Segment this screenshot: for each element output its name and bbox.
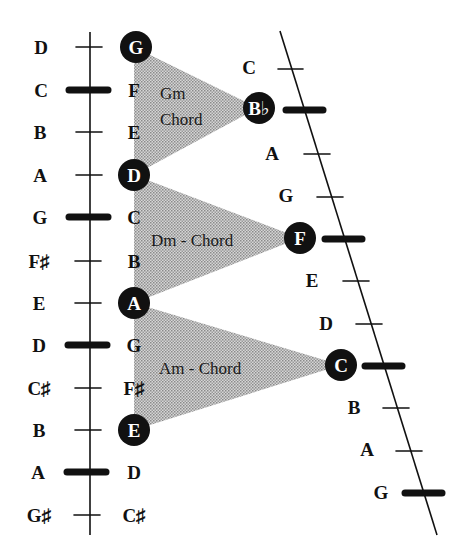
- dm-chord-label: Dm - Chord: [151, 231, 234, 250]
- svg-text:A: A: [127, 293, 141, 314]
- left-scale-ticks: [67, 47, 108, 515]
- left-note-label: C: [34, 80, 48, 101]
- svg-text:D: D: [127, 165, 141, 186]
- left-note-label: F♯: [28, 251, 50, 272]
- left-note-label: A: [31, 462, 45, 483]
- middle-note-label: E: [128, 122, 141, 143]
- left-note-label: G♯: [27, 505, 52, 526]
- left-note-label: C♯: [27, 378, 51, 399]
- right-note-label: A: [265, 143, 279, 164]
- right-note-label: B: [348, 397, 361, 418]
- left-note-label: G: [33, 207, 48, 228]
- svg-text:C: C: [334, 355, 348, 376]
- left-scale-labels: D C B A G F♯ E D C♯ B A G♯: [27, 37, 52, 526]
- middle-note-label: D: [127, 462, 141, 483]
- right-scale-labels: C B♭ A G F E D C B A G: [242, 57, 388, 503]
- right-note-label: G: [279, 185, 294, 206]
- middle-note-label: F♯: [123, 378, 145, 399]
- left-note-label: E: [33, 293, 46, 314]
- middle-note-label: F: [128, 80, 140, 101]
- gm-chord-label-line1: Gm: [160, 84, 186, 103]
- am-chord-label: Am - Chord: [159, 359, 242, 378]
- gm-chord-label-line2: Chord: [160, 110, 203, 129]
- middle-note-label: B: [128, 251, 141, 272]
- right-note-label: A: [360, 439, 374, 460]
- svg-text:B♭: B♭: [248, 98, 270, 119]
- svg-text:F: F: [294, 228, 306, 249]
- middle-note-label: C♯: [122, 505, 146, 526]
- left-note-label: B: [33, 420, 46, 441]
- svg-text:G: G: [129, 37, 144, 58]
- left-note-label: D: [34, 37, 48, 58]
- middle-note-label: C: [127, 207, 141, 228]
- right-scale-ticks: [278, 69, 442, 493]
- right-note-label: G: [374, 482, 389, 503]
- left-note-label: B: [34, 122, 47, 143]
- svg-text:E: E: [128, 420, 141, 441]
- middle-note-label: G: [127, 335, 142, 356]
- right-note-label: C: [242, 57, 256, 78]
- scale-chord-diagram: D C B A G F♯ E D C♯ B A G♯ G F E D C B A…: [0, 0, 469, 555]
- left-note-label: A: [33, 165, 47, 186]
- left-note-label: D: [32, 335, 46, 356]
- right-note-label: D: [319, 313, 333, 334]
- right-note-label: E: [306, 270, 319, 291]
